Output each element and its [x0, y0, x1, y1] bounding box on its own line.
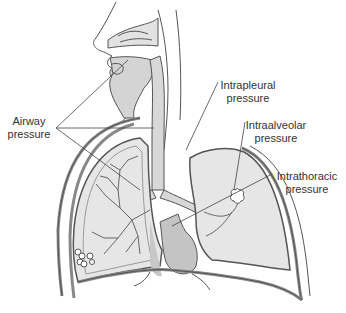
label-intrapleural-pressure: Intrapleural pressure [216, 79, 280, 105]
diaphragm [78, 270, 302, 300]
label-intrathoracic-line2: pressure [270, 183, 344, 196]
label-intrapleural-line2: pressure [216, 92, 280, 105]
label-airway-line2: pressure [2, 128, 56, 141]
leader-intrapleural [186, 82, 218, 150]
label-intrathoracic-pressure: Intrathoracic pressure [270, 170, 344, 196]
respiratory-pressure-diagram [0, 0, 346, 313]
label-intraalveolar-line1: Intraalveolar [244, 119, 308, 132]
label-intraalveolar-pressure: Intraalveolar pressure [244, 119, 308, 145]
label-intraalveolar-line2: pressure [244, 132, 308, 145]
label-airway-line1: Airway [2, 115, 56, 128]
label-intrapleural-line1: Intrapleural [216, 79, 280, 92]
label-airway-pressure: Airway pressure [2, 115, 56, 141]
label-intrathoracic-line1: Intrathoracic [270, 170, 344, 183]
